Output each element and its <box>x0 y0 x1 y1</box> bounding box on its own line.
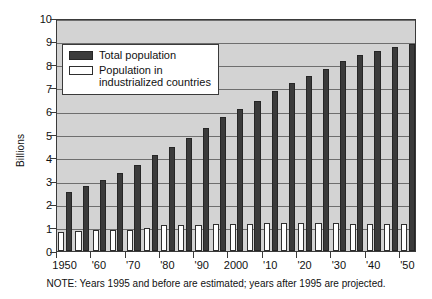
x-axis-tick <box>159 252 160 258</box>
bar-industrialized <box>298 223 304 251</box>
y-axis-tick <box>50 65 56 66</box>
bar-total <box>323 69 329 251</box>
y-axis-tick-label: 2 <box>30 200 52 211</box>
bar-industrialized <box>161 225 167 251</box>
x-axis-tick <box>227 252 228 258</box>
legend-label-industrialized: Population in industrialized countries <box>99 64 211 89</box>
x-axis-tick <box>90 252 91 258</box>
bar-total <box>66 192 72 251</box>
y-axis-tick <box>50 88 56 89</box>
y-axis-tick-label: 6 <box>30 107 52 118</box>
bar-industrialized <box>367 224 373 251</box>
legend-swatch-industrialized-icon <box>69 66 93 75</box>
x-axis-tick-label: '80 <box>160 259 174 272</box>
bar-total <box>272 91 278 251</box>
x-axis-tick <box>365 252 366 258</box>
x-axis-tick <box>296 252 297 258</box>
y-axis-tick-label: 0 <box>30 247 52 258</box>
legend-item-industrialized: Population in industrialized countries <box>69 64 211 89</box>
bar-total <box>409 44 415 251</box>
x-axis-ticks <box>56 252 416 258</box>
bar-total <box>117 173 123 251</box>
legend-label-industrialized-line2: industrialized countries <box>99 76 211 88</box>
y-axis-tick-label: 7 <box>30 83 52 94</box>
bar-total <box>306 76 312 251</box>
bar-total <box>100 180 106 251</box>
x-axis-tick-label: '50 <box>400 259 414 272</box>
bar-industrialized <box>350 224 356 251</box>
y-axis-tick-label: 5 <box>30 130 52 141</box>
bar-industrialized <box>195 225 201 251</box>
x-axis-tick-label: '20 <box>297 259 311 272</box>
chart-legend: Total population Population in industria… <box>62 44 219 95</box>
bar-total <box>186 138 192 251</box>
y-axis-tick-label: 1 <box>30 223 52 234</box>
y-axis-tick <box>50 112 56 113</box>
legend-label-total: Total population <box>99 49 176 62</box>
bar-industrialized <box>230 224 236 251</box>
y-axis-tick-label: 8 <box>30 60 52 71</box>
bar-industrialized <box>264 223 270 251</box>
x-axis-tick-label: '40 <box>366 259 380 272</box>
bar-group <box>246 20 263 251</box>
bar-total <box>134 165 140 251</box>
x-axis-tick <box>125 252 126 258</box>
bar-industrialized <box>110 230 116 251</box>
y-axis-tick <box>50 228 56 229</box>
x-axis-tick-label: 1950 <box>52 259 76 272</box>
bar-industrialized <box>93 230 99 251</box>
bar-industrialized <box>75 231 81 251</box>
bar-group <box>314 20 331 251</box>
x-axis-tick-labels: 1950'60'70'80'902000'10'20'30'40'50 <box>56 259 416 275</box>
x-axis-tick-label: '60 <box>92 259 106 272</box>
x-axis-tick <box>399 252 400 258</box>
bar-total <box>289 83 295 251</box>
y-axis-tick <box>50 252 56 253</box>
bar-industrialized <box>247 224 253 251</box>
bar-total <box>374 51 380 251</box>
bar-industrialized <box>213 224 219 251</box>
x-axis-tick-label: '90 <box>195 259 209 272</box>
bar-total <box>392 47 398 251</box>
bar-industrialized <box>58 232 64 251</box>
chart-container: Billions 012345678910 Total population P… <box>0 0 432 299</box>
y-axis-tick <box>50 19 56 20</box>
y-axis-tick-label: 4 <box>30 153 52 164</box>
bar-group <box>348 20 365 251</box>
y-axis-tick-label: 10 <box>30 14 52 25</box>
bar-group <box>228 20 245 251</box>
bar-group <box>263 20 280 251</box>
x-axis-tick-label: '10 <box>263 259 277 272</box>
chart-note: NOTE: Years 1995 and before are estimate… <box>0 278 432 290</box>
x-axis-tick-label: '70 <box>126 259 140 272</box>
y-axis-tick <box>50 135 56 136</box>
bar-total <box>357 55 363 251</box>
bar-group <box>383 20 400 251</box>
x-axis-tick <box>193 252 194 258</box>
bar-industrialized <box>127 230 133 251</box>
x-axis-tick-label: '30 <box>332 259 346 272</box>
bar-industrialized <box>144 228 150 251</box>
bar-group <box>366 20 383 251</box>
bar-group <box>400 20 417 251</box>
bar-industrialized <box>384 224 390 251</box>
bar-group <box>331 20 348 251</box>
bar-industrialized <box>401 224 407 251</box>
bar-total <box>254 101 260 251</box>
bar-total <box>169 147 175 251</box>
y-axis-tick-label: 3 <box>30 177 52 188</box>
bar-total <box>340 61 346 251</box>
legend-item-total: Total population <box>69 49 211 62</box>
bar-total <box>220 117 226 251</box>
y-axis-tick <box>50 205 56 206</box>
x-axis-tick <box>56 252 57 258</box>
y-axis-tick-label: 9 <box>30 37 52 48</box>
bar-total <box>152 155 158 251</box>
y-axis-tick <box>50 158 56 159</box>
bar-industrialized <box>315 223 321 251</box>
bar-industrialized <box>178 225 184 251</box>
legend-label-industrialized-line1: Population in <box>99 64 163 76</box>
x-axis-tick <box>330 252 331 258</box>
y-axis-tick-labels: 012345678910 <box>30 19 52 252</box>
x-axis-tick-label: 2000 <box>224 259 248 272</box>
